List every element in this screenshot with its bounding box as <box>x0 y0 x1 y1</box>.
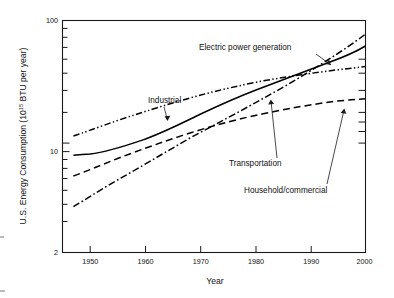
annotation-label-industrial: Industrial <box>148 96 181 105</box>
y-axis-title: U.S. Energy Consumption (1015 BTU per ye… <box>18 47 28 224</box>
x-axis-ticks <box>90 246 365 253</box>
arrowhead-industrial <box>165 116 171 121</box>
y-tick-100: 100 <box>46 16 58 25</box>
y-axis-title-prefix: U.S. Energy Consumption (10 <box>18 110 28 224</box>
annotation-label-electric-power-generation: Electric power generation <box>199 43 292 52</box>
x-tick-1950: 1950 <box>82 257 98 266</box>
leader-household-commercial <box>327 109 346 185</box>
energy-consumption-chart: 100 10 2 1950 1960 1970 1980 1990 2000 Y… <box>0 0 394 298</box>
x-tick-1980: 1980 <box>248 257 264 266</box>
leader-transportation <box>268 100 277 159</box>
x-tick-1990: 1990 <box>303 257 319 266</box>
annotation-label-transportation: Transportation <box>229 159 282 168</box>
x-tick-2000: 2000 <box>357 257 373 266</box>
leader-industrial <box>164 107 170 121</box>
x-axis-title: Year <box>206 276 224 286</box>
page-edge-mark-bottom <box>0 290 5 292</box>
series-transportation <box>73 46 365 155</box>
y-axis-ticks <box>63 21 366 253</box>
plot-frame <box>63 21 366 253</box>
arrowhead-transportation <box>268 100 274 105</box>
y-tick-10: 10 <box>50 147 58 156</box>
y-axis-title-suffix: BTU per year) <box>18 47 28 103</box>
x-tick-1960: 1960 <box>138 257 154 266</box>
series-household-commercial <box>73 99 365 176</box>
arrowhead-household-commercial <box>341 109 347 114</box>
page-edge-mark-top <box>0 236 4 238</box>
annotation-label-household-commercial: Household/commercial <box>244 186 327 195</box>
x-tick-1970: 1970 <box>193 257 209 266</box>
chart-svg: 100 10 2 1950 1960 1970 1980 1990 2000 Y… <box>0 0 394 298</box>
svg-text:U.S. Energy Consumption (1015: U.S. Energy Consumption (1015 BTU per ye… <box>18 47 28 224</box>
y-tick-2: 2 <box>54 248 58 257</box>
series-industrial <box>73 67 365 137</box>
series-group <box>73 34 365 207</box>
